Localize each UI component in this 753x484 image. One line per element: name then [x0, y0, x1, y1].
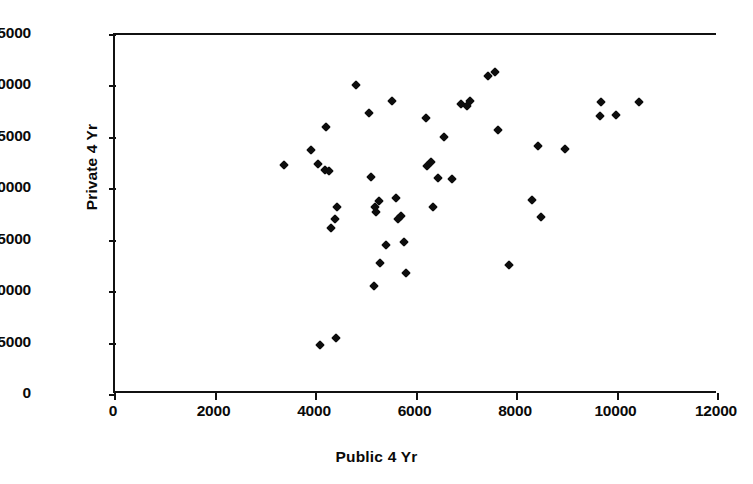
data-point [326, 223, 336, 233]
data-point [279, 160, 289, 170]
data-points-layer [115, 35, 716, 391]
data-point [364, 108, 374, 118]
data-point [369, 282, 379, 292]
data-point [315, 340, 325, 350]
y-tick-label: 15000 [0, 230, 31, 248]
data-point [595, 111, 605, 121]
plot-area [113, 33, 716, 393]
data-point [493, 125, 503, 135]
y-tick-label: 20000 [0, 178, 31, 196]
data-point [560, 144, 570, 154]
data-point [331, 333, 341, 343]
x-tick-mark [516, 393, 518, 400]
data-point [447, 174, 457, 184]
y-tick-label: 30000 [0, 75, 31, 93]
data-point [401, 268, 411, 278]
x-tick-label: 12000 [656, 402, 753, 420]
y-axis-title: Private 4 Yr [83, 67, 101, 267]
data-point [536, 212, 546, 222]
data-point [387, 96, 397, 106]
data-point [391, 193, 401, 203]
y-tick-label: 0 [0, 384, 31, 402]
data-point [433, 173, 443, 183]
data-point [428, 202, 438, 212]
data-point [321, 122, 331, 132]
y-tick-label: 10000 [0, 281, 31, 299]
data-point [351, 80, 361, 90]
data-point [381, 240, 391, 250]
data-point [306, 145, 316, 155]
data-point [634, 97, 644, 107]
data-point [596, 97, 606, 107]
data-point [533, 141, 543, 151]
x-tick-mark [416, 393, 418, 400]
data-point [612, 110, 622, 120]
data-point [375, 258, 385, 268]
scatter-chart: 05000100001500020000250003000035000 Priv… [0, 0, 753, 484]
data-point [366, 172, 376, 182]
x-tick-mark [717, 393, 719, 400]
x-tick-mark [617, 393, 619, 400]
y-tick-label: 5000 [0, 333, 31, 351]
data-point [421, 113, 431, 123]
x-tick-mark [315, 393, 317, 400]
y-tick-label: 35000 [0, 24, 31, 42]
data-point [330, 214, 340, 224]
data-point [439, 132, 449, 142]
data-point [504, 260, 514, 270]
x-tick-mark [114, 393, 116, 400]
x-axis-title: Public 4 Yr [0, 448, 753, 466]
data-point [527, 195, 537, 205]
x-tick-mark [215, 393, 217, 400]
data-point [332, 202, 342, 212]
data-point [399, 237, 409, 247]
y-tick-label: 25000 [0, 127, 31, 145]
